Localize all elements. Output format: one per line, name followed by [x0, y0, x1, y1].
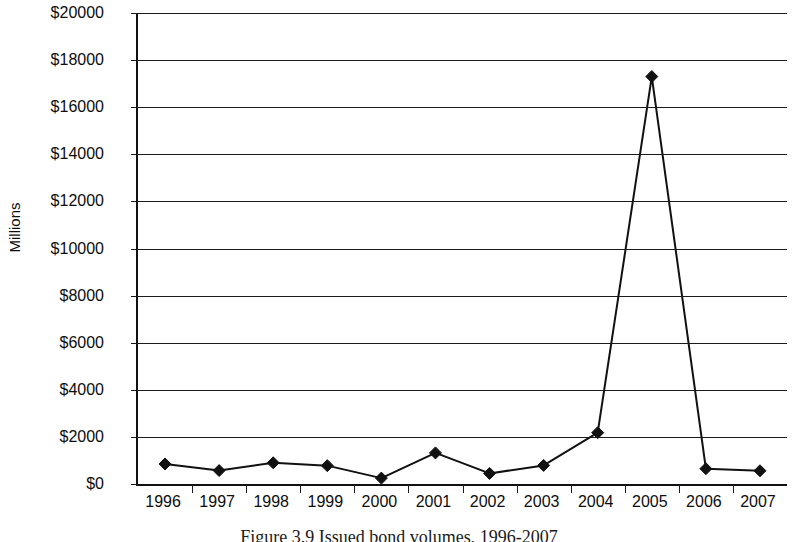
- x-axis-tick-label: 2007: [723, 492, 793, 512]
- y-axis-tick-mark: [131, 107, 139, 108]
- gridline: [138, 60, 787, 61]
- y-axis-tick-mark: [131, 249, 139, 250]
- y-axis-tick-mark: [131, 437, 139, 438]
- y-axis-tick-mark: [131, 60, 139, 61]
- data-point-marker: [700, 463, 712, 475]
- gridline: [138, 201, 787, 202]
- series-line: [165, 77, 760, 479]
- data-point-marker: [429, 447, 441, 459]
- gridline: [138, 249, 787, 250]
- data-point-marker: [646, 71, 658, 83]
- y-axis-tick-mark: [131, 484, 139, 485]
- y-axis-tick-label: $2000: [12, 429, 104, 445]
- plot-inner: [138, 13, 787, 484]
- y-axis-tick-labels: $20000$18000$16000$14000$12000$10000$800…: [12, 0, 104, 542]
- y-axis-tick-label: $0: [12, 476, 104, 492]
- gridline: [138, 390, 787, 391]
- y-axis-tick-label: $10000: [12, 241, 104, 257]
- y-axis-tick-mark: [131, 390, 139, 391]
- gridline: [138, 437, 787, 438]
- y-axis-tick-label: $16000: [12, 99, 104, 115]
- data-point-marker: [321, 460, 333, 472]
- y-axis-tick-mark: [131, 343, 139, 344]
- y-axis-tick-label: $20000: [12, 5, 104, 21]
- y-axis-tick-label: $4000: [12, 382, 104, 398]
- y-axis-tick-label: $14000: [12, 146, 104, 162]
- y-axis-tick-mark: [131, 201, 139, 202]
- y-axis-tick-label: $6000: [12, 335, 104, 351]
- data-point-marker: [159, 458, 171, 470]
- data-point-marker: [754, 465, 766, 477]
- data-point-marker: [538, 459, 550, 471]
- y-axis-tick-label: $8000: [12, 288, 104, 304]
- data-point-marker: [484, 467, 496, 479]
- y-axis-tick-mark: [131, 154, 139, 155]
- x-axis-tick-labels: 1996199719981999200020012002200320042005…: [136, 492, 796, 516]
- plot-area: [136, 13, 787, 486]
- gridline: [138, 296, 787, 297]
- gridline: [138, 154, 787, 155]
- gridline: [138, 13, 787, 14]
- chart-figure: Millions $20000$18000$16000$14000$12000$…: [0, 0, 798, 542]
- y-axis-tick-mark: [131, 296, 139, 297]
- gridline: [138, 107, 787, 108]
- y-axis-tick-label: $12000: [12, 193, 104, 209]
- data-point-marker: [375, 472, 387, 484]
- data-point-marker: [213, 465, 225, 477]
- figure-caption: Figure 3.9 Issued bond volumes, 1996-200…: [0, 527, 798, 542]
- data-point-marker: [267, 457, 279, 469]
- y-axis-tick-mark: [131, 13, 139, 14]
- y-axis-tick-label: $18000: [12, 52, 104, 68]
- gridline: [138, 343, 787, 344]
